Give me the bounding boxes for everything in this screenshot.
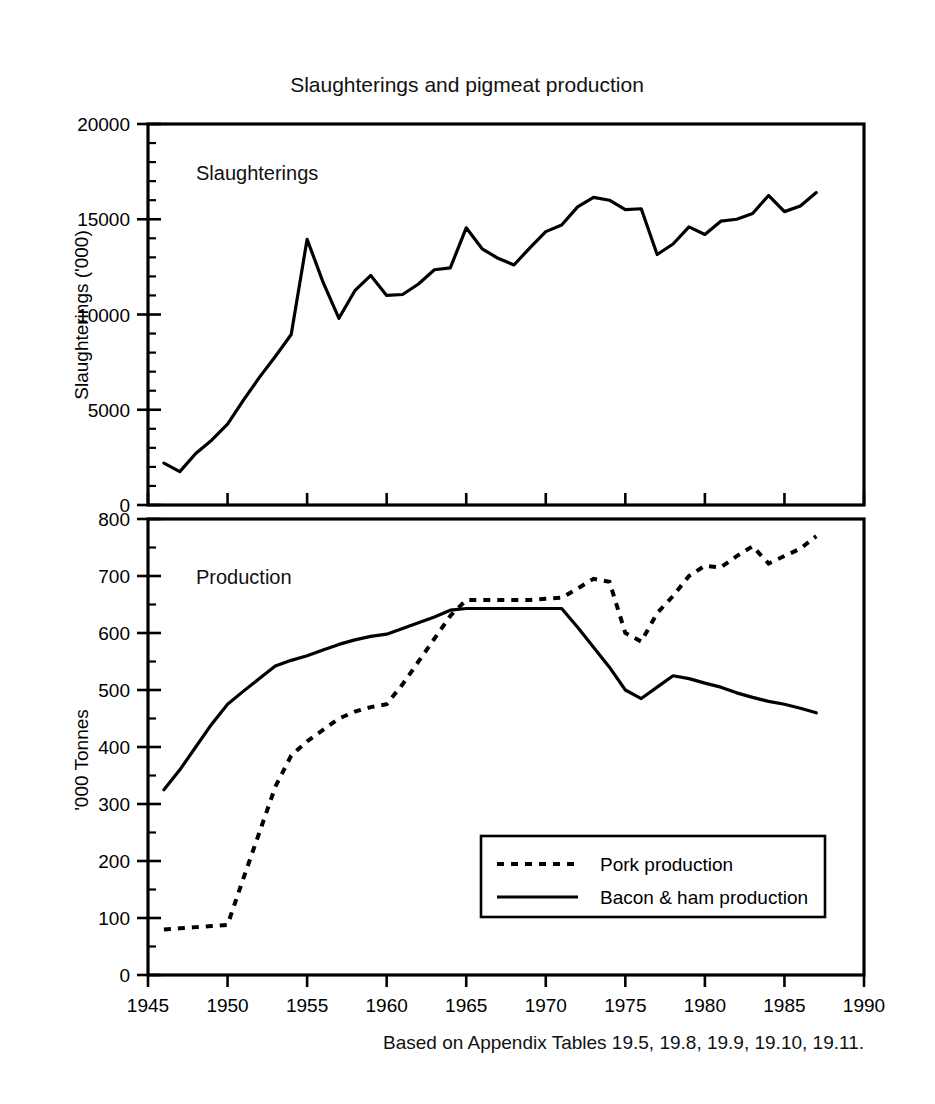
x-tick-label: 1990 [843,995,885,1016]
production-y-tick-label: 700 [98,566,130,587]
slaughterings-y-tick-label: 15000 [77,209,130,230]
production-y-tick-label: 600 [98,623,130,644]
production-y-axis-title: '000 Tonnes [71,709,92,811]
production-y-tick-label: 800 [98,509,130,530]
panel-label-production: Production [196,566,292,588]
x-tick-label: 1960 [366,995,408,1016]
x-tick-label: 1980 [684,995,726,1016]
legend: Pork production Bacon & ham production [481,836,825,917]
chart-title: Slaughterings and pigmeat production [290,73,644,96]
production-y-tick-label: 100 [98,908,130,929]
slaughterings-y-tick-label: 5000 [88,400,130,421]
production-y-tick-label: 200 [98,851,130,872]
x-tick-label: 1950 [206,995,248,1016]
x-tick-label: 1965 [445,995,487,1016]
legend-label-pork-production: Pork production [600,854,733,875]
x-tick-label: 1970 [525,995,567,1016]
slaughterings-y-tick-label: 20000 [77,114,130,135]
production-y-tick-label: 500 [98,680,130,701]
figure-footnote: Based on Appendix Tables 19.5, 19.8, 19.… [383,1032,864,1053]
legend-label-bacon-ham-production: Bacon & ham production [600,887,808,908]
figure-root: Slaughterings and pigmeat production 050… [0,0,935,1104]
production-y-tick-labels: 0100200300400500600700800 [98,509,130,986]
panel-label-slaughterings: Slaughterings [196,162,318,184]
x-tick-label: 1945 [127,995,169,1016]
production-y-tick-label: 400 [98,737,130,758]
x-tick-label: 1975 [604,995,646,1016]
slaughterings-y-axis-title: Slaughterings ('000) [71,230,92,399]
production-y-tick-label: 0 [119,965,130,986]
x-tick-label: 1985 [763,995,805,1016]
production-y-tick-label: 300 [98,794,130,815]
x-tick-label: 1955 [286,995,328,1016]
